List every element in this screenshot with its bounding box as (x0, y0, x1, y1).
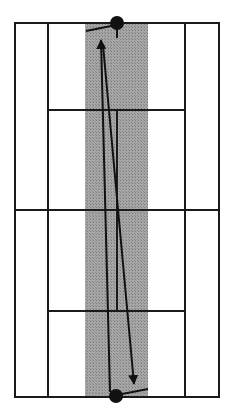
bottom-player-icon (109, 389, 123, 403)
tennis-court-diagram (0, 0, 230, 415)
top-player-icon (110, 16, 124, 30)
